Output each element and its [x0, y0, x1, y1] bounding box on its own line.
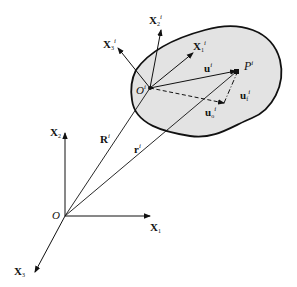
diagram-canvas: O X1 X2 X3 Ri ri Oi X1i X2i X3i ui uoi u…	[0, 0, 297, 287]
global-axis-x3	[35, 216, 65, 272]
vector-r-label: ri	[134, 143, 141, 155]
point-P	[234, 69, 239, 74]
body-origin-label: Oi	[136, 84, 146, 96]
global-axis-x2-label: X2	[50, 127, 61, 139]
body-axis-x1-label: X1i	[193, 40, 206, 53]
vector-uf-label: ufi	[240, 89, 250, 102]
global-axis-x3-label: X3	[14, 266, 25, 278]
point-P-label: Pi	[244, 60, 253, 72]
body-axis-x2-label: X2i	[149, 14, 162, 27]
body-origin-dot	[148, 86, 152, 90]
vector-u-label: ui	[204, 62, 212, 74]
vector-R-label: Ri	[100, 133, 110, 145]
body-axis-x3-label: X3i	[103, 38, 116, 51]
vector-uo-label: uoi	[205, 106, 216, 119]
diagram-svg	[0, 0, 297, 287]
deformable-body	[131, 26, 281, 136]
global-axis-x1-label: X1	[150, 222, 161, 234]
global-origin-label: O	[52, 210, 60, 221]
